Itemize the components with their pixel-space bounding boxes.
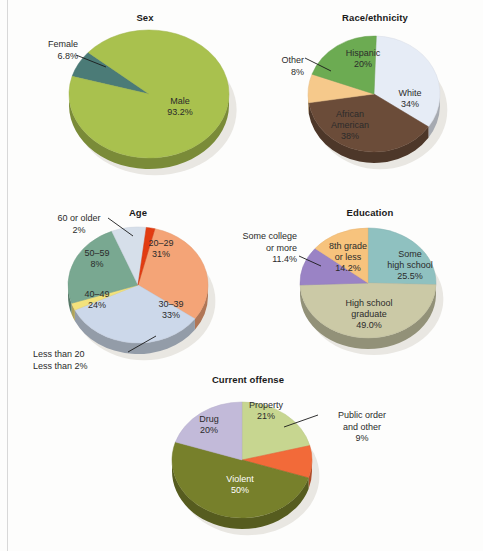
callout-value: 8%	[291, 67, 304, 77]
chart-sex-leader-female	[76, 54, 110, 70]
slice-name-line2: American	[331, 120, 369, 130]
chart-education-label-some-high-school: Some high school 25.5%	[373, 249, 447, 282]
slice-value: 34%	[401, 99, 419, 109]
slice-name-line2: high school	[387, 260, 433, 270]
slice-name: 30–39	[158, 299, 183, 309]
callout-value: 9%	[355, 433, 368, 443]
slice-value: 20%	[200, 425, 218, 435]
chart-race-callout-other: Other 8%	[248, 55, 304, 78]
slice-value: 21%	[257, 411, 275, 421]
chart-race: Race/ethnicity White 34% African America…	[300, 10, 450, 178]
slice-name-line1: 8th grade	[329, 241, 367, 251]
chart-age-leader-60-or-older	[108, 217, 138, 239]
slice-value: 38%	[341, 131, 359, 141]
slice-name-line2: or less	[335, 252, 362, 262]
callout-name-line1: Public order	[338, 410, 386, 420]
slice-name: Property	[249, 400, 283, 410]
chart-education-leader-some-college	[299, 255, 325, 269]
chart-age-label-20-29: 20–29 31%	[132, 238, 190, 260]
slice-name: 50–59	[84, 248, 109, 258]
chart-age-label-50-59: 50–59 8%	[71, 248, 123, 270]
slice-name: Drug	[199, 414, 219, 424]
slice-value: 25.5%	[397, 271, 423, 281]
slice-name-line1: Some	[398, 249, 422, 259]
callout-name-line1: Some college	[242, 231, 297, 241]
chart-age: Age 20–29 31% 30–39 33% 40–49 24% 50–59 …	[60, 205, 225, 365]
page-left-rule	[7, 0, 8, 551]
callout-name-line2: and other	[343, 422, 381, 432]
callout-name: Female	[48, 39, 78, 49]
slice-value: 50%	[231, 485, 249, 495]
chart-age-callout-less-than-20: Less than 20 Less than 2%	[33, 349, 133, 372]
callout-value: Less than 2%	[33, 361, 88, 371]
slice-value: 14.2%	[335, 263, 361, 273]
callout-value: 11.4%	[272, 254, 297, 264]
chart-education-pie	[295, 205, 450, 363]
slice-name: Hispanic	[346, 48, 381, 58]
slice-name: 20–29	[148, 238, 173, 248]
slice-name: Violent	[226, 474, 253, 484]
callout-name: Less than 20	[33, 349, 85, 359]
chart-education-label-high-school-graduate: High school graduate 49.0%	[328, 298, 410, 331]
chart-education-callout-some-college: Some college or more 11.4%	[217, 231, 297, 266]
chart-sex-pie	[58, 10, 240, 178]
chart-age-leader-less-than-20	[128, 335, 160, 355]
chart-sex-callout-female: Female 6.8%	[10, 39, 78, 62]
slice-value: 8%	[90, 259, 103, 269]
slice-value: 31%	[152, 249, 170, 259]
chart-offense-callout-public-order: Public order and other 9%	[318, 410, 406, 445]
chart-offense-label-drug: Drug 20%	[184, 414, 234, 436]
slice-name: Male	[170, 96, 190, 106]
chart-sex: Sex Male 93.2% Female 6.8%	[58, 10, 240, 178]
figure-page: Sex Male 93.2% Female 6.8% Race/ethnicit…	[0, 0, 483, 551]
chart-current-offense: Current offense Property 21% Violent 50%…	[168, 372, 328, 544]
chart-race-label-white: White 34%	[382, 88, 438, 110]
slice-value: 33%	[162, 310, 180, 320]
slice-value: 20%	[354, 59, 372, 69]
chart-offense-leader-public-order	[284, 414, 320, 430]
callout-name: 60 or older	[57, 213, 100, 223]
chart-age-label-30-39: 30–39 33%	[142, 299, 200, 321]
callout-value: 2%	[72, 225, 85, 235]
slice-name-line1: African	[336, 109, 364, 119]
chart-age-label-40-49: 40–49 24%	[69, 289, 125, 311]
callout-name-line2: or more	[266, 243, 297, 253]
callout-name: Other	[281, 55, 304, 65]
chart-race-label-hispanic: Hispanic 20%	[330, 48, 396, 70]
chart-race-label-african-american: African American 38%	[314, 109, 386, 142]
slice-value: 24%	[88, 300, 106, 310]
chart-race-leader-other	[305, 57, 335, 75]
chart-offense-label-violent: Violent 50%	[210, 474, 270, 496]
chart-education: Education Some high school 25.5% High sc…	[295, 205, 450, 363]
callout-value: 6.8%	[57, 51, 78, 61]
slice-value: 49.0%	[356, 320, 382, 330]
chart-sex-label-male: Male 93.2%	[150, 96, 210, 118]
slice-value: 93.2%	[167, 107, 193, 117]
slice-name-line2: graduate	[351, 309, 387, 319]
chart-current-offense-pie	[168, 372, 328, 544]
slice-name-line1: High school	[345, 298, 392, 308]
slice-name: 40–49	[84, 289, 109, 299]
slice-name: White	[398, 88, 421, 98]
